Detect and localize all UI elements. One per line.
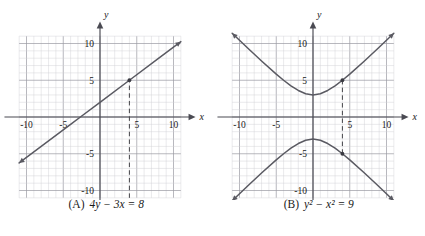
x-tick-label: -10 [20, 120, 33, 130]
caption-a-equation: 4y − 3x = 8 [89, 198, 143, 210]
y-tick-label: 5 [89, 76, 94, 86]
y-tick-label: -5 [299, 149, 307, 159]
intersection-point-marker [340, 152, 344, 156]
caption-a: (A)4y − 3x = 8 [0, 198, 213, 210]
x-tick-label: 10 [381, 120, 391, 130]
graph-a-svg: xy-10-5510105-5-10 [0, 0, 213, 200]
x-axis-arrowhead [401, 114, 408, 121]
y-tick-label: 10 [85, 39, 95, 49]
y-axis-arrowhead [97, 21, 104, 28]
graph-b-svg: xy-10-5510105-5-10 [213, 0, 425, 200]
y-tick-label: 5 [302, 76, 307, 86]
x-axis-label: x [199, 111, 205, 122]
caption-b-label: (B) [284, 198, 299, 210]
y-axis-label: y [103, 9, 109, 20]
x-axis-arrowhead [189, 114, 196, 121]
figure-row: xy-10-5510105-5-10 (A)4y − 3x = 8 xy-10-… [0, 0, 425, 236]
caption-a-label: (A) [69, 198, 85, 210]
axes-layer: xy [4, 9, 204, 200]
y-tick-label: -5 [86, 149, 94, 159]
y-tick-label: -10 [81, 186, 94, 196]
y-tick-label: -10 [294, 186, 307, 196]
y-axis-label: y [316, 9, 322, 20]
x-tick-label: 5 [134, 120, 139, 130]
intersection-point-marker [127, 78, 131, 82]
plot-b: xy-10-5510105-5-10 [213, 0, 425, 200]
plot-a: xy-10-5510105-5-10 [0, 0, 213, 200]
y-tick-label: 10 [297, 39, 307, 49]
caption-b: (B)y² − x² = 9 [213, 198, 425, 210]
y-axis-arrowhead [309, 21, 316, 28]
intersection-point-marker [340, 78, 344, 82]
x-tick-label: -5 [272, 120, 280, 130]
panel-b: xy-10-5510105-5-10 (B)y² − x² = 9 [213, 0, 425, 236]
x-axis-label: x [411, 111, 417, 122]
axes-layer: xy [217, 9, 417, 200]
x-tick-label: -10 [233, 120, 246, 130]
x-tick-label: 10 [169, 120, 179, 130]
x-tick-label: 5 [347, 120, 352, 130]
caption-b-equation: y² − x² = 9 [304, 198, 354, 210]
panel-a: xy-10-5510105-5-10 (A)4y − 3x = 8 [0, 0, 213, 236]
